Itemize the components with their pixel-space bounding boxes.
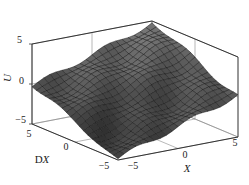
dx-axis-label: DX bbox=[35, 153, 51, 165]
z-tick-5: 5 bbox=[17, 34, 22, 45]
surface-plot: 5 0 −5 U 5 0 −5 DX −5 0 5 X bbox=[0, 0, 249, 185]
x-tick-5: 5 bbox=[233, 137, 238, 148]
x-axis-label: X bbox=[183, 162, 192, 174]
z-tick-minus5: −5 bbox=[15, 114, 26, 125]
z-tick-0: 0 bbox=[19, 75, 24, 86]
dx-tick-0: 0 bbox=[64, 141, 69, 152]
dx-tick-minus5: −5 bbox=[99, 160, 110, 171]
surface-mesh bbox=[32, 23, 238, 159]
z-axis-label: U bbox=[1, 73, 13, 82]
x-tick-0: 0 bbox=[183, 149, 188, 160]
x-tick-minus5: −5 bbox=[128, 160, 139, 171]
dx-tick-5: 5 bbox=[27, 128, 32, 139]
z-axis: 5 0 −5 U bbox=[1, 34, 26, 125]
